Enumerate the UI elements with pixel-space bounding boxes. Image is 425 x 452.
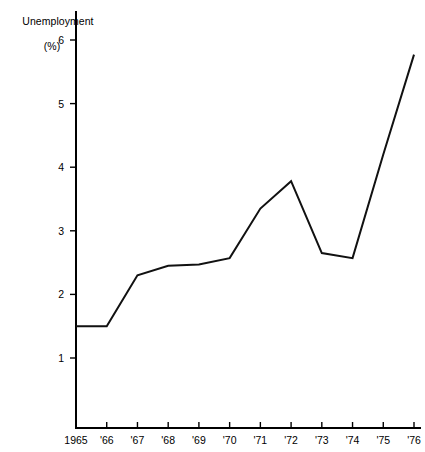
x-axis-tick-labels: 1965'66'67'68'69'70'71'72'73'74'75'76 [64,434,421,446]
unemployment-series-line [76,55,414,327]
y-tick-label: 5 [58,98,64,110]
x-tick-label: '66 [100,434,114,446]
chart-plot-area: 123456 1965'66'67'68'69'70'71'72'73'74'7… [0,0,425,452]
x-tick-label: '75 [376,434,390,446]
y-tick-label: 6 [58,34,64,46]
x-tick-label: '71 [254,434,268,446]
x-tick-label: '69 [192,434,206,446]
x-tick-label: '73 [315,434,329,446]
x-tick-label: '76 [407,434,421,446]
x-tick-label: '67 [131,434,145,446]
y-axis-tick-labels: 123456 [58,34,64,364]
y-tick-label: 2 [58,288,64,300]
axes-group [76,12,420,428]
y-tick-label: 3 [58,225,64,237]
axis-lines [76,12,420,428]
x-tick-label: '74 [346,434,360,446]
x-tick-label: '72 [284,434,298,446]
x-tick-label: 1965 [64,434,88,446]
x-tick-label: '70 [223,434,237,446]
data-series-group [76,55,414,327]
y-tick-label: 4 [58,161,64,173]
y-tick-label: 1 [58,352,64,364]
unemployment-line-chart: Unemployment (%) 123456 1965'66'67'68'69… [0,0,425,452]
x-tick-label: '68 [161,434,175,446]
